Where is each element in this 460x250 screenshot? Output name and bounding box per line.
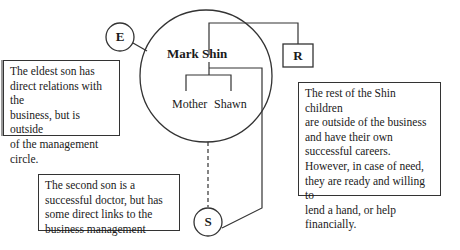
management-circle (140, 10, 272, 142)
tree-branch (186, 75, 231, 91)
note-line: are outside of the business (305, 115, 434, 130)
note-line: successful doctor, but has (45, 193, 173, 208)
node-r-label: R (288, 48, 308, 64)
note-line: they are ready and willing to (305, 174, 434, 203)
member-mother: Mother (172, 97, 207, 111)
note-line: and have their own (305, 130, 434, 145)
note-line: business, but is outside (10, 108, 113, 137)
note-second-son: The second son is a successful doctor, b… (38, 174, 180, 231)
center-person-name: Mark Shin (167, 47, 227, 61)
member-shawn: Shawn (214, 97, 247, 111)
note-line: The rest of the Shin children (305, 86, 434, 115)
note-rest-of-children: The rest of the Shin children are outsid… (298, 82, 441, 196)
note-line: circle. (10, 152, 113, 167)
note-line: business management (45, 222, 173, 237)
note-line: successful careers. (305, 144, 434, 159)
note-line: financially. (305, 217, 434, 232)
note-line: The second son is a (45, 178, 173, 193)
note-line: some direct links to the (45, 207, 173, 222)
node-e-label: E (110, 29, 130, 45)
note-line: However, in case of need, (305, 159, 434, 174)
note-line: of the management (10, 137, 113, 152)
note-line: lend a hand, or help (305, 203, 434, 218)
note-eldest-son: The eldest son has direct relations with… (3, 60, 120, 136)
connector-s (209, 68, 262, 228)
note-line: direct relations with the (10, 79, 113, 108)
connector-e (133, 43, 147, 51)
note-line: The eldest son has (10, 64, 113, 79)
node-s-label: S (198, 214, 218, 230)
